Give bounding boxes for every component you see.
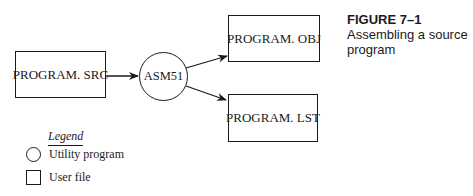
legend-title: Legend bbox=[48, 129, 83, 146]
node-program-src: PROGRAM. SRC bbox=[15, 51, 106, 98]
node-label: PROGRAM. OBJ bbox=[227, 31, 321, 47]
square-icon bbox=[26, 170, 41, 185]
arrow-asm51-to-lst bbox=[186, 86, 226, 100]
circle-icon bbox=[26, 147, 41, 162]
node-label: ASM51 bbox=[144, 69, 184, 84]
node-program-lst: PROGRAM. LST bbox=[228, 94, 318, 142]
legend-label: User file bbox=[49, 170, 91, 185]
figure-number: FIGURE 7–1 bbox=[347, 12, 468, 27]
figure-title-line1: Assembling a source bbox=[347, 27, 468, 42]
legend-label: Utility program bbox=[49, 147, 124, 162]
node-asm51: ASM51 bbox=[139, 52, 188, 101]
figure-caption: FIGURE 7–1 Assembling a source program bbox=[347, 12, 468, 57]
figure-title-line2: program bbox=[347, 42, 468, 57]
arrow-asm51-to-obj bbox=[186, 56, 227, 68]
node-program-obj: PROGRAM. OBJ bbox=[228, 15, 320, 62]
legend-item-utility-program: Utility program bbox=[26, 147, 124, 162]
node-label: PROGRAM. LST bbox=[226, 110, 320, 126]
node-label: PROGRAM. SRC bbox=[13, 67, 108, 83]
legend-item-user-file: User file bbox=[26, 170, 91, 185]
